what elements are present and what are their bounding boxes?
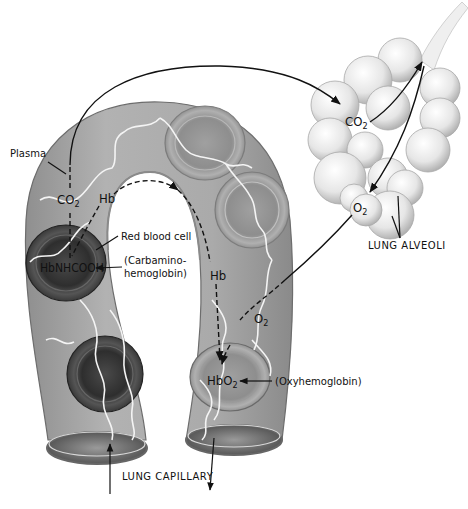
gas-exchange-diagram: Plasma CO2 Hb Red blood cell HbNHCOOH (C… [0,0,468,509]
airway [420,2,468,70]
alveolus [406,128,450,172]
formula-co2-alveoli: CO2 [345,114,368,131]
lung-alveoli [308,2,468,239]
formula-hb-right: Hb [210,268,226,283]
capillary-right-opening [186,425,282,455]
lung-capillary [25,102,292,464]
label-lung-capillary: LUNG CAPILLARY [122,471,214,482]
label-plasma: Plasma [10,148,46,159]
label-oxyhemoglobin: (Oxyhemoglobin) [275,376,362,387]
red-blood-cell-top [165,106,245,180]
label-lung-alveoli: LUNG ALVEOLI [368,240,446,251]
formula-hbnhcooh: HbNHCOOH [40,261,104,275]
arrow-o2-to-capillary-solid [285,215,352,280]
label-carbamino-line2: hemoglobin) [124,268,187,279]
formula-hb-left: Hb [99,191,115,206]
red-blood-cell-right-upper [215,172,289,248]
label-red-blood-cell: Red blood cell [121,231,191,242]
red-blood-cell-left-lower [67,336,143,412]
capillary-left-opening [47,432,147,464]
label-carbamino-line1: (Carbamino- [124,255,187,266]
